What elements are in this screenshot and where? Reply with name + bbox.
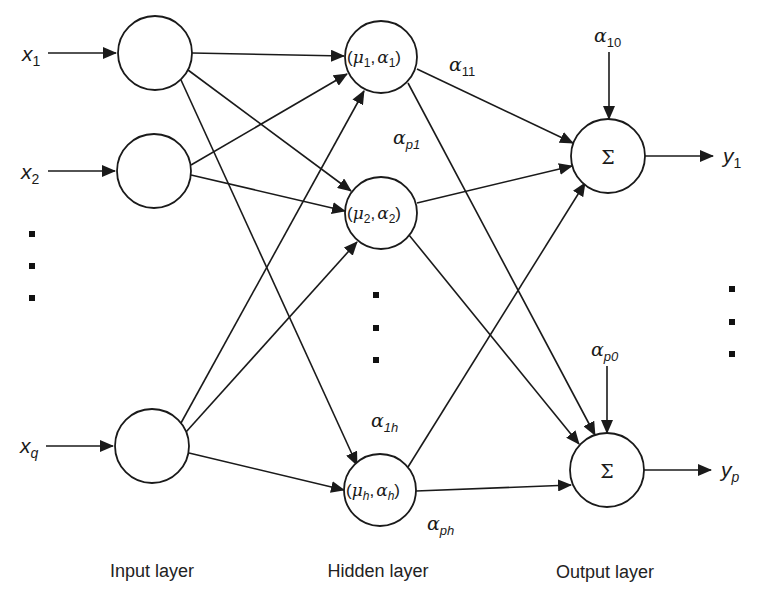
output-layer-nodes	[570, 119, 645, 507]
hidden-layer-label: Hidden layer	[327, 561, 428, 581]
bias-arrows	[607, 52, 609, 433]
edge-in2-h1	[191, 74, 347, 165]
rbf-network-diagram: x1 x2 xq (μ1,α1) (μ2,α2) (μh,αh) Σ Σ α10…	[0, 0, 760, 604]
weight-label-ph: αph	[427, 512, 454, 538]
bias-label-p0: αp0	[591, 338, 619, 364]
bias-label-10: α10	[594, 24, 621, 50]
edge-h2-o1	[417, 166, 572, 203]
edge-h1-o1	[417, 69, 573, 143]
edge-in2-h2	[191, 175, 345, 211]
input-hidden-edges	[181, 53, 364, 490]
input-node-2	[117, 134, 191, 208]
bias-labels: α10 αp0	[591, 24, 621, 364]
edge-hh-op	[416, 485, 571, 491]
input-arrows	[46, 53, 116, 446]
input-label-x2: x2	[20, 160, 40, 187]
weight-label-1h: α1h	[371, 409, 398, 435]
layer-labels: Input layer Hidden layer Output layer	[110, 561, 654, 582]
hidden-layer-nodes	[344, 21, 417, 526]
edge-inq-h2	[186, 242, 357, 432]
hidden-ellipsis	[373, 292, 379, 363]
edge-in1-h1	[192, 53, 344, 56]
input-node-1	[118, 16, 192, 90]
output-layer-label: Output layer	[556, 562, 654, 582]
output-label-yp: yp	[719, 458, 740, 485]
edge-hh-o1	[408, 183, 585, 467]
input-labels: x1 x2 xq	[19, 42, 41, 461]
sigma-icon-1: Σ	[601, 146, 614, 168]
input-layer-nodes	[115, 16, 192, 483]
input-layer-label: Input layer	[110, 561, 194, 581]
edge-inq-hh	[189, 453, 344, 490]
output-labels: y1 yp	[719, 144, 742, 485]
edge-in1-h2	[188, 70, 351, 191]
output-ellipsis	[729, 286, 735, 357]
input-node-q	[115, 409, 189, 483]
weight-label-11: α11	[449, 53, 475, 79]
output-arrows	[644, 156, 713, 470]
edge-h2-op	[409, 235, 579, 444]
input-label-x1: x1	[21, 42, 41, 69]
input-ellipsis	[29, 231, 35, 301]
hidden-output-edges	[408, 69, 595, 491]
weight-label-p1: αp1	[393, 126, 420, 152]
ellipsis-dots	[29, 231, 735, 363]
edge-h1-op	[408, 83, 595, 435]
output-label-y1: y1	[721, 144, 742, 171]
sigma-icon-p: Σ	[600, 460, 613, 482]
input-label-xq: xq	[19, 434, 39, 461]
